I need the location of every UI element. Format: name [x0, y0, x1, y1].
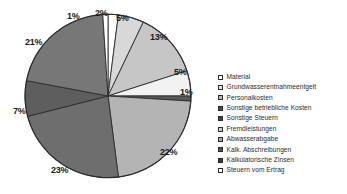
legend-item-label: Sonstige Steuern — [227, 115, 278, 122]
legend-item-label: Grundwasserentnahmeentgelt — [227, 84, 317, 91]
legend-item-label: Steuern vom Ertrag — [227, 167, 285, 174]
legend-swatch-icon — [218, 75, 223, 80]
legend-item: Material — [218, 72, 346, 82]
legend-item-label: Sonstige betriebliche Kosten — [227, 105, 312, 112]
legend-swatch-icon — [218, 147, 223, 152]
legend-swatch-icon — [218, 168, 223, 173]
legend-item: Personalkosten — [218, 93, 346, 103]
legend-item-label: Personalkosten — [227, 95, 273, 102]
pie-percentage-label: 22% — [160, 148, 177, 157]
legend-item: Grundwasserentnahmeentgelt — [218, 82, 346, 92]
pie-svg — [0, 0, 215, 194]
legend-swatch-icon — [218, 137, 223, 142]
pie-percentage-label: 13% — [150, 33, 167, 42]
legend-item-label: Material — [227, 74, 251, 81]
legend-item: Sonstige Steuern — [218, 114, 346, 124]
pie-percentage-label: 2% — [95, 9, 108, 18]
legend-item-label: Kalkulatorische Zinsen — [227, 157, 294, 164]
legend-swatch-icon — [218, 116, 223, 121]
pie-percentage-label: 21% — [25, 38, 42, 47]
legend-swatch-icon — [218, 158, 223, 163]
legend-item: Fremdleistungen — [218, 124, 346, 134]
legend-item-label: Fremdleistungen — [227, 126, 277, 133]
pie-slice — [108, 96, 191, 177]
legend-swatch-icon — [218, 85, 223, 90]
pie-percentage-label: 5% — [116, 14, 129, 23]
pie-percentage-label: 1% — [180, 88, 193, 97]
legend-item: Steuern vom Ertrag — [218, 166, 346, 176]
pie-percentage-label: 23% — [51, 166, 68, 175]
pie-chart-figure: 1%2%5%13%5%1%22%23%7%21% MaterialGrundwa… — [0, 0, 347, 194]
pie-plot-area: 1%2%5%13%5%1%22%23%7%21% — [0, 0, 215, 194]
legend-item-label: Abwasserabgabe — [227, 136, 279, 143]
legend-item: Kalk. Abschreibungen — [218, 145, 346, 155]
pie-percentage-label: 5% — [174, 68, 187, 77]
pie-percentage-label: 1% — [67, 12, 80, 21]
legend-swatch-icon — [218, 127, 223, 132]
legend-swatch-icon — [218, 106, 223, 111]
legend-swatch-icon — [218, 95, 223, 100]
legend-item-label: Kalk. Abschreibungen — [227, 147, 292, 154]
legend-item: Abwasserabgabe — [218, 134, 346, 144]
chart-legend: MaterialGrundwasserentnahmeentgeltPerson… — [218, 72, 346, 176]
legend-item: Sonstige betriebliche Kosten — [218, 103, 346, 113]
pie-percentage-label: 7% — [13, 107, 26, 116]
legend-item: Kalkulatorische Zinsen — [218, 155, 346, 165]
